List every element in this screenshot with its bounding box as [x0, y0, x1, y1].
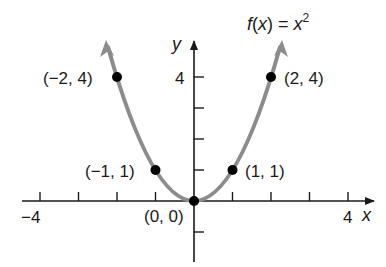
y-axis-label: y	[170, 34, 182, 54]
point-label-neg1-1: (−1, 1)	[85, 162, 135, 181]
y-ticks	[194, 77, 204, 232]
point-1-1	[228, 165, 238, 175]
point-label-2-4: (2, 4)	[284, 69, 324, 88]
curve-arrow-left-icon	[100, 40, 114, 57]
x-tick-label-neg4: −4	[21, 208, 40, 227]
curve-arrow-right-icon	[274, 40, 288, 57]
point-label-1-1: (1, 1)	[245, 162, 285, 181]
x-tick-label-4: 4	[343, 208, 352, 227]
point-neg1-1	[151, 165, 161, 175]
function-label: f(x) = x2	[247, 11, 310, 34]
x-axis-label: x	[361, 205, 372, 225]
parabola-graph: (−2, 4) (−1, 1) (0, 0) (1, 1) (2, 4) −4 …	[0, 0, 386, 267]
point-label-neg2-4: (−2, 4)	[43, 69, 93, 88]
point-neg2-4	[112, 72, 122, 82]
point-label-0-0: (0, 0)	[144, 207, 184, 226]
point-0-0	[189, 196, 199, 206]
point-2-4	[266, 72, 276, 82]
y-tick-label-4: 4	[175, 69, 184, 88]
